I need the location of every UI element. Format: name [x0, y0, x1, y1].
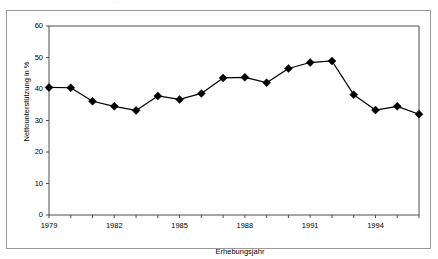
data-point — [197, 89, 205, 97]
x-axis-title: Erhebungsjahr — [55, 247, 425, 256]
data-point — [154, 92, 162, 100]
y-tick-label: 30 — [21, 116, 43, 125]
x-tick-label: 1988 — [225, 221, 265, 230]
y-tick-label: 10 — [21, 179, 43, 188]
y-tick-label: 60 — [21, 21, 43, 30]
x-tick-label: 1994 — [355, 221, 395, 230]
x-tick-label: 1991 — [290, 221, 330, 230]
data-point — [263, 79, 271, 87]
x-tick-label: 1979 — [29, 221, 69, 230]
data-point — [67, 84, 75, 92]
data-point — [132, 106, 140, 114]
data-point — [415, 110, 423, 118]
data-point — [371, 106, 379, 114]
data-point — [393, 102, 401, 110]
x-tick-label: 1982 — [94, 221, 134, 230]
data-point — [328, 57, 336, 65]
y-tick-label: 0 — [21, 210, 43, 219]
y-tick-label: 20 — [21, 147, 43, 156]
y-tick-label: 50 — [21, 53, 43, 62]
x-tick-label: 1985 — [160, 221, 200, 230]
chart-frame: Nettounterstützung in % Erhebungsjahr 01… — [6, 10, 431, 249]
data-point — [176, 95, 184, 103]
chart-plot-area — [7, 11, 432, 250]
data-point — [284, 65, 292, 73]
data-point — [350, 91, 358, 99]
data-point — [45, 83, 53, 91]
scan-artifact: … — [112, 0, 138, 4]
data-point — [110, 102, 118, 110]
data-point — [306, 59, 314, 67]
data-point — [89, 97, 97, 105]
data-point — [241, 73, 249, 81]
data-point — [219, 74, 227, 82]
y-tick-label: 40 — [21, 84, 43, 93]
chart-figure: … Nettounterstützung in % Erhebungsjahr … — [0, 0, 438, 259]
y-axis-title: Nettounterstützung in % — [22, 47, 31, 157]
